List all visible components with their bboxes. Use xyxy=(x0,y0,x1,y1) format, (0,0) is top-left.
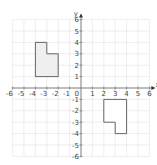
x-tick-label: 6 xyxy=(147,90,152,98)
y-tick-label: 3 xyxy=(75,50,79,58)
y-tick-label: 1 xyxy=(75,73,79,81)
shape-a xyxy=(35,42,58,76)
x-tick-label: 4 xyxy=(124,90,129,98)
y-axis-label: y xyxy=(74,10,78,18)
x-tick-label: 3 xyxy=(113,90,117,98)
y-tick-label: -2 xyxy=(72,107,79,115)
shape-b xyxy=(104,99,127,133)
x-tick-label: -2 xyxy=(52,90,59,98)
x-tick-label: -1 xyxy=(63,90,70,98)
x-tick-label: -4 xyxy=(29,90,37,98)
x-tick-label: 2 xyxy=(102,90,106,98)
y-axis-arrow-icon xyxy=(79,14,83,18)
x-tick-label: -3 xyxy=(40,90,47,98)
y-tick-label: -4 xyxy=(72,130,80,138)
x-axis-label: x xyxy=(155,81,157,89)
y-tick-label: 5 xyxy=(75,28,79,36)
x-tick-label: 5 xyxy=(136,90,140,98)
x-tick-label: 1 xyxy=(90,90,94,98)
tick-labels: -6-5-4-3-2-1123456654321-1-2-3-4-5-60xy xyxy=(6,10,157,161)
origin-label: 0 xyxy=(75,90,79,98)
axes xyxy=(12,14,156,158)
x-tick-label: -6 xyxy=(6,90,14,98)
y-tick-label: 4 xyxy=(75,39,80,47)
y-tick-label: -5 xyxy=(72,142,79,150)
coordinate-plane: -6-5-4-3-2-1123456654321-1-2-3-4-5-60xy xyxy=(0,0,157,165)
y-tick-label: 2 xyxy=(75,62,79,70)
y-tick-label: -3 xyxy=(72,119,79,127)
x-tick-label: -5 xyxy=(18,90,25,98)
y-tick-label: -6 xyxy=(72,153,80,161)
